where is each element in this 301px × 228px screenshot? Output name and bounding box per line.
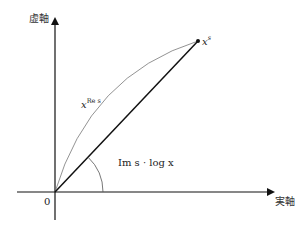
real-axis-label: 実軸 [275,197,295,207]
curve-label: xRe s [81,98,101,110]
diagram-canvas [0,0,301,228]
angle-label: Im s · log x [118,158,174,168]
imaginary-axis-label: 虚軸 [29,14,49,24]
point-label: xs [202,35,211,47]
point-xs [196,39,200,43]
point-label-exponent: s [208,34,211,42]
curve-label-exponent: Re s [87,97,101,105]
angle-arc [88,157,103,192]
origin-label: 0 [44,197,50,207]
vector-segment [55,41,198,192]
